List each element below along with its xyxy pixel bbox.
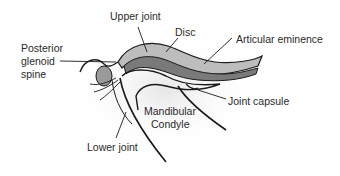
label-joint-capsule: Joint capsule	[228, 95, 289, 107]
label-posterior-glenoid-spine-line1: Posterior	[21, 42, 63, 54]
label-articular-eminence: Articular eminence	[236, 33, 323, 45]
label-lower-joint: Lower joint	[87, 141, 138, 153]
label-disc: Disc	[175, 26, 195, 38]
label-upper-joint: Upper joint	[110, 10, 161, 22]
label-posterior-glenoid-spine-line2: glenoid	[21, 55, 55, 67]
label-mandibular-condyle-line2: Condyle	[151, 118, 190, 130]
label-posterior-glenoid-spine-line3: spine	[21, 68, 46, 80]
label-mandibular-condyle-line1: Mandibular	[144, 105, 196, 117]
tmj-illustration	[0, 0, 340, 176]
